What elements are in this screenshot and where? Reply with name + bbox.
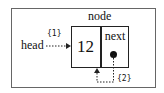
next-self-arrow-icon (94, 55, 114, 82)
pointer-arrows (0, 0, 164, 93)
head-arrow-icon (46, 43, 71, 49)
